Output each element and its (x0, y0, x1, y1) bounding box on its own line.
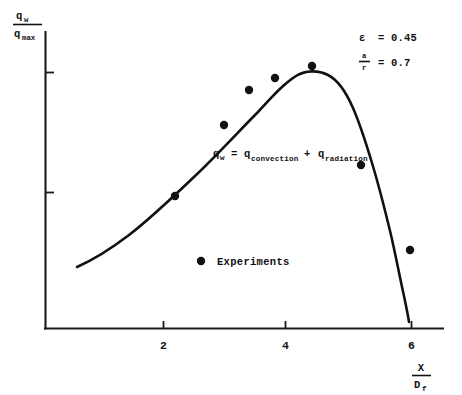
equation-term2-subscript: radiation (325, 155, 368, 163)
annotation-ratio: a r = 0.7 (359, 52, 411, 72)
x-tick-group: 2 4 6 (160, 321, 415, 352)
data-point (271, 74, 279, 82)
emissivity-value: 0.45 (391, 32, 417, 44)
ratio-value: 0.7 (391, 57, 411, 69)
equation-plus: + (304, 148, 311, 160)
annotation-flux-equation: q w = q convection + q radiation (213, 148, 368, 163)
y-axis-label: q w q max (13, 10, 42, 42)
data-point (171, 192, 179, 200)
equation-term1-subscript: convection (251, 155, 299, 163)
y-axis-label-denominator-subscript: max (22, 34, 36, 42)
model-curve-group (77, 71, 409, 322)
x-axis-label-denominator-subscript: f (422, 385, 427, 393)
emissivity-equals: = (378, 32, 385, 44)
data-point (220, 121, 228, 129)
data-point (245, 86, 253, 94)
legend-marker-icon (197, 257, 205, 265)
y-axis-label-numerator-subscript: w (24, 16, 29, 24)
annotation-emissivity: ε = 0.45 (359, 32, 417, 44)
x-tick-label-2: 2 (160, 339, 167, 352)
equation-q: q (213, 148, 220, 160)
ratio-denominator: r (362, 64, 366, 72)
legend: Experiments (197, 256, 290, 268)
ratio-numerator: a (362, 52, 367, 60)
data-point (308, 62, 316, 70)
x-axis-label: X D f (412, 362, 431, 393)
x-axis-label-denominator: D (414, 379, 420, 391)
x-axis-label-numerator: X (418, 362, 425, 374)
data-point (406, 246, 414, 254)
ratio-equals: = (378, 57, 385, 69)
x-tick-label-4: 4 (282, 339, 289, 352)
x-tick-label-6: 6 (408, 339, 415, 352)
chart-figure: 2 4 6 q w q max X D f (0, 0, 462, 395)
equation-term2: q (318, 148, 325, 160)
legend-label: Experiments (217, 256, 290, 268)
emissivity-symbol: ε (359, 32, 366, 44)
y-axis-label-denominator: q (14, 28, 20, 40)
equation-equals: = (231, 148, 238, 160)
equation-term1: q (244, 148, 251, 160)
y-axis-label-numerator: q (16, 10, 22, 22)
model-curve (77, 71, 409, 322)
equation-q-subscript: w (220, 154, 225, 162)
axis-group (45, 32, 443, 329)
chart-canvas: 2 4 6 q w q max X D f (0, 0, 462, 395)
